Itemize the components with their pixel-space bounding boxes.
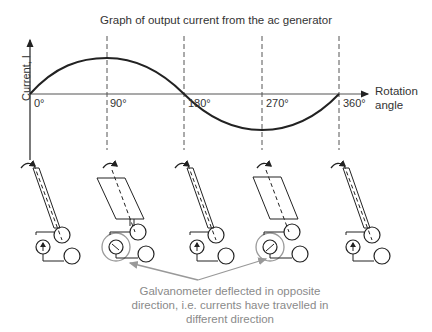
tick-270: 270° — [266, 97, 289, 109]
generator-360deg — [331, 163, 390, 264]
tick-180: 180° — [188, 97, 211, 109]
x-axis-label: Rotation angle — [375, 84, 418, 112]
annotation-line1: Galvanometer deflected in opposite — [120, 284, 340, 298]
x-axis-label-line2: angle — [375, 98, 418, 112]
x-axis-label-line1: Rotation — [375, 84, 418, 98]
annotation-line3: different direction — [120, 312, 340, 326]
generator-180deg — [175, 163, 234, 264]
annotation-line2: direction, i.e. currents have travelled … — [120, 298, 340, 312]
galvanometer-annotation: Galvanometer deflected in opposite direc… — [120, 284, 340, 326]
ac-generator-diagram — [0, 0, 432, 332]
generator-270deg — [253, 163, 308, 262]
tick-90: 90° — [110, 97, 127, 109]
tick-0: 0° — [34, 97, 45, 109]
tick-360: 360° — [343, 97, 366, 109]
dashed-guide-lines — [107, 36, 339, 150]
generator-0deg — [21, 163, 80, 264]
generator-90deg — [97, 163, 154, 262]
y-axis-label: Current, I — [20, 48, 32, 108]
annotation-arrows — [130, 259, 266, 280]
